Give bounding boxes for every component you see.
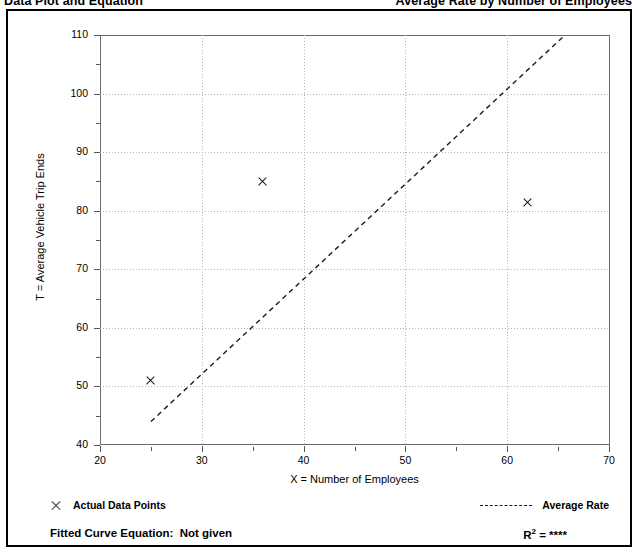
- y-tick-label: 90: [46, 145, 88, 157]
- x-tick-label: 40: [284, 454, 324, 466]
- x-marker-icon: [50, 499, 62, 511]
- chart-area: 203040506070 405060708090100110 T = Aver…: [8, 11, 629, 481]
- r-squared-value: R2 = ****: [523, 527, 567, 541]
- dashed-line-icon: [480, 505, 532, 506]
- x-axis-title: X = Number of Employees: [100, 473, 609, 485]
- y-tick-label: 80: [46, 204, 88, 216]
- x-tick-label: 50: [385, 454, 425, 466]
- x-axis-tick: [609, 446, 610, 452]
- x-axis-tick-minor: [355, 447, 356, 451]
- legend-label-data-points: Actual Data Points: [73, 499, 166, 511]
- legend-item-data-points: Actual Data Points: [50, 499, 166, 511]
- x-axis-tick-minor: [456, 447, 457, 451]
- x-axis-tick-minor: [253, 447, 254, 451]
- page-title-row: Data Plot and Equation Average Rate by N…: [0, 0, 638, 9]
- r-squared-prefix: R: [523, 529, 531, 541]
- trend-line-path: [151, 35, 609, 422]
- x-axis-tick: [507, 446, 508, 452]
- chart-footer: Fitted Curve Equation: Not given R2 = **…: [8, 527, 629, 551]
- r-squared-number: = ****: [539, 529, 567, 541]
- y-axis-title: T = Average Vehicle Trip Ends: [34, 47, 46, 407]
- chart-legend: Actual Data Points Average Rate: [8, 499, 629, 523]
- y-tick-label: 40: [46, 438, 88, 450]
- fitted-curve-equation: Fitted Curve Equation: Not given: [50, 527, 232, 539]
- legend-label-average-rate: Average Rate: [542, 499, 609, 511]
- x-axis-tick: [202, 446, 203, 452]
- x-tick-label: 60: [487, 454, 527, 466]
- y-tick-label: 50: [46, 379, 88, 391]
- x-axis-tick: [100, 446, 101, 452]
- r-squared-exponent: 2: [532, 527, 536, 536]
- page-title: Data Plot and Equation: [4, 0, 143, 8]
- chart-frame: 203040506070 405060708090100110 T = Aver…: [6, 9, 632, 547]
- page-title-right: Average Rate by Number of Employees: [396, 0, 632, 8]
- y-tick-label: 110: [46, 28, 88, 40]
- legend-item-average-rate: Average Rate: [480, 499, 609, 511]
- x-axis-tick-minor: [151, 447, 152, 451]
- y-tick-label: 60: [46, 321, 88, 333]
- average-rate-line: [100, 35, 610, 446]
- trend-svg: [100, 35, 610, 446]
- x-tick-label: 30: [182, 454, 222, 466]
- x-tick-label: 70: [589, 454, 629, 466]
- x-axis-tick: [304, 446, 305, 452]
- x-tick-label: 20: [80, 454, 120, 466]
- x-axis-tick: [405, 446, 406, 452]
- y-tick-label: 70: [46, 262, 88, 274]
- x-axis-tick-minor: [558, 447, 559, 451]
- y-tick-label: 100: [46, 87, 88, 99]
